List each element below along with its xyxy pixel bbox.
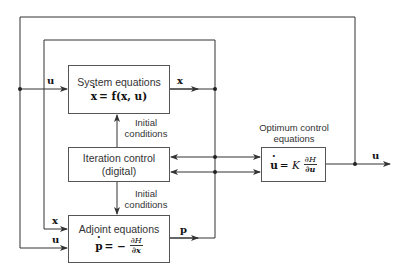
adjoint-equations-block: Adjoint equations p = − ∂H ∂x	[68, 215, 170, 263]
initial-conditions-label-bottom: Initial conditions	[123, 188, 169, 210]
optimum-equation-operator: = K	[280, 158, 300, 172]
initial-conditions-top-line1: Initial	[123, 117, 169, 128]
initial-conditions-label-top: Initial conditions	[123, 117, 169, 139]
fraction-denominator: ∂u	[305, 165, 315, 174]
connection-wires	[0, 0, 407, 277]
signal-x-system-out: x	[177, 75, 183, 86]
adjoint-equation-operator: = −	[104, 239, 125, 253]
initial-conditions-bottom-line1: Initial	[123, 188, 169, 199]
u-dot: u	[270, 158, 278, 172]
signal-u-adjoint-in: u	[52, 234, 59, 245]
system-equation: x = f(x, u)	[91, 89, 147, 103]
adjoint-equations-title: Adjoint equations	[79, 223, 160, 236]
signal-p-adjoint-out: p	[180, 224, 187, 235]
optimum-control-block: u = K ∂H ∂u	[261, 147, 326, 182]
optimum-control-label: Optimum control equations	[247, 122, 341, 144]
signal-x-adjoint-in: x	[52, 215, 58, 226]
partial-h-partial-x: ∂H ∂x	[130, 236, 143, 255]
x-dot: x	[91, 89, 97, 103]
initial-conditions-bottom-line2: conditions	[123, 199, 169, 210]
system-equation-rhs: = f(x, u)	[99, 89, 147, 103]
p-dot: p	[95, 239, 102, 253]
partial-h-partial-u: ∂H ∂u	[304, 155, 317, 174]
signal-u-system-in: u	[47, 75, 54, 86]
optimum-control-label-line2: equations	[247, 133, 341, 144]
signal-u-output: u	[372, 150, 379, 161]
iteration-control-title: Iteration control	[83, 152, 155, 165]
iteration-control-block: Iteration control (digital)	[68, 147, 170, 182]
adjoint-equation: p = − ∂H ∂x	[95, 236, 143, 255]
iteration-control-subtitle: (digital)	[102, 165, 136, 178]
optimum-control-label-line1: Optimum control	[247, 122, 341, 133]
system-equations-title: System equations	[77, 76, 160, 89]
system-equations-block: System equations x = f(x, u)	[68, 65, 170, 114]
fraction-denominator: ∂x	[132, 246, 141, 255]
optimum-control-equation: u = K ∂H ∂u	[270, 155, 317, 174]
initial-conditions-top-line2: conditions	[123, 128, 169, 139]
